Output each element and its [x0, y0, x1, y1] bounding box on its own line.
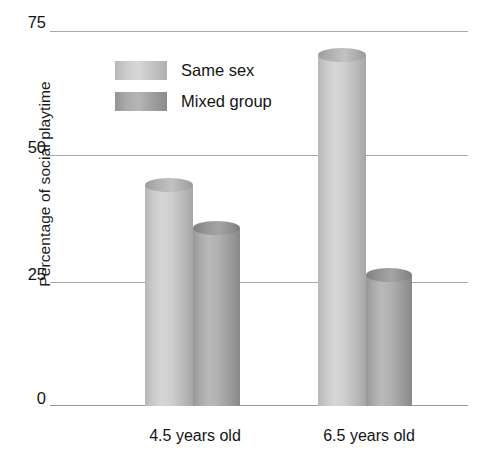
legend-swatch-same-sex [115, 61, 167, 80]
legend-label-mixed-group: Mixed group [181, 93, 272, 110]
x-tick-label-4-5-years-old: 4.5 years old [110, 428, 280, 444]
y-tick-label-0: 0 [6, 390, 46, 407]
legend-swatch-mixed-group [115, 92, 167, 111]
bar-same-sex-4-5-years-old [145, 178, 193, 406]
legend-label-same-sex: Same sex [181, 62, 254, 79]
bar-chart: Percentage of social playtime 75 50 25 0 [0, 0, 479, 465]
legend: Same sex Mixed group [115, 58, 272, 120]
bar-body [318, 55, 366, 406]
bar-top-ellipse [366, 268, 412, 282]
bar-top-ellipse [318, 48, 366, 62]
y-tick-label-75: 75 [6, 14, 46, 31]
x-tick-label-6-5-years-old: 6.5 years old [284, 428, 454, 444]
gridline-75 [50, 31, 468, 32]
legend-item-same-sex: Same sex [115, 58, 272, 82]
bar-body [366, 275, 412, 406]
bar-mixed-group-6-5-years-old [366, 268, 412, 406]
legend-item-mixed-group: Mixed group [115, 89, 272, 113]
gridline-50 [50, 155, 468, 156]
bar-top-ellipse [193, 221, 240, 235]
bar-body [193, 228, 240, 406]
bar-top-ellipse [145, 178, 193, 192]
bar-body [145, 185, 193, 406]
bar-same-sex-6-5-years-old [318, 48, 366, 406]
bar-mixed-group-4-5-years-old [193, 221, 240, 406]
